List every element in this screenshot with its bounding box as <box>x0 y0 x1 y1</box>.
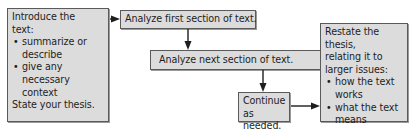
arrow-right-icon <box>291 103 320 110</box>
arrow-right-icon <box>110 16 120 23</box>
connector-arrows <box>0 0 415 129</box>
arrow-down-icon <box>260 70 267 92</box>
arrow-down-icon <box>185 29 192 50</box>
